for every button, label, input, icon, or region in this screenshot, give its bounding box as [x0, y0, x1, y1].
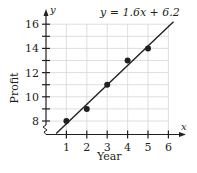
data-point [125, 58, 131, 64]
y-tick-label: 14 [25, 42, 39, 55]
y-axis-symbol: y [49, 4, 56, 15]
x-tick-label: 1 [63, 141, 70, 154]
regression-line [56, 22, 173, 134]
data-point [145, 45, 151, 51]
x-axis-symbol: x [181, 121, 187, 132]
equation-label: y = 1.6x + 6.2 [99, 6, 180, 19]
x-axis-arrow [179, 132, 186, 137]
x-tick-label: 4 [124, 141, 131, 154]
data-point [63, 118, 69, 124]
x-axis-label: Year [96, 150, 122, 163]
y-axis-arrow [44, 9, 49, 16]
y-tick-label: 12 [25, 67, 39, 80]
y-tick-label: 10 [25, 91, 39, 104]
x-tick-label: 2 [83, 141, 90, 154]
tick-labels: 123456810121416 [25, 18, 172, 154]
data-point [104, 82, 110, 88]
y-tick-label: 16 [25, 18, 39, 31]
grid [46, 24, 168, 134]
y-tick-label: 8 [32, 115, 39, 128]
x-tick-label: 6 [165, 141, 172, 154]
y-axis-label: Profit [8, 72, 21, 104]
y-axis-break [43, 125, 47, 135]
chart: 123456810121416 y = 1.6x + 6.2 x y Year … [0, 0, 197, 173]
data-point [84, 106, 90, 112]
x-tick-label: 5 [145, 141, 152, 154]
